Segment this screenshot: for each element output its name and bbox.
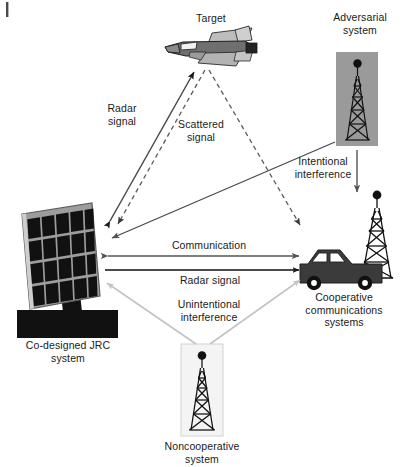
corner-mark — [6, 2, 8, 17]
edge-scattered-signal-to-cooperative — [209, 70, 300, 225]
car-icon — [300, 250, 382, 290]
label-scattered-signal: Scattered signal — [168, 118, 234, 143]
fighter-jet-icon — [165, 26, 257, 66]
label-unintentional-interference: Unintentional interference — [161, 298, 257, 323]
label-radar-signal-to-target: Radar signal — [94, 102, 150, 127]
figure-canvas: Target Adversarial system Radar signal S… — [0, 0, 413, 467]
label-intentional-interference: Intentional interference — [284, 155, 362, 180]
label-noncooperative-system: Noncooperative system — [150, 440, 254, 465]
label-jrc-system: Co-designed JRC system — [7, 339, 129, 364]
label-target: Target — [176, 12, 246, 25]
diagram-svg — [0, 0, 413, 467]
adversarial-system-icon — [336, 52, 378, 146]
edge-radar-signal-to-target — [110, 72, 194, 221]
label-radar-signal-link: Radar signal — [168, 274, 252, 287]
edge-scattered-signal-to-jrc — [118, 70, 205, 224]
label-communication: Communication — [161, 239, 257, 252]
noncooperative-system-icon — [181, 344, 223, 436]
label-cooperative-system: Cooperative communications systems — [291, 291, 397, 329]
label-adversarial-system: Adversarial system — [317, 11, 403, 36]
phased-array-panel-icon — [17, 203, 118, 338]
